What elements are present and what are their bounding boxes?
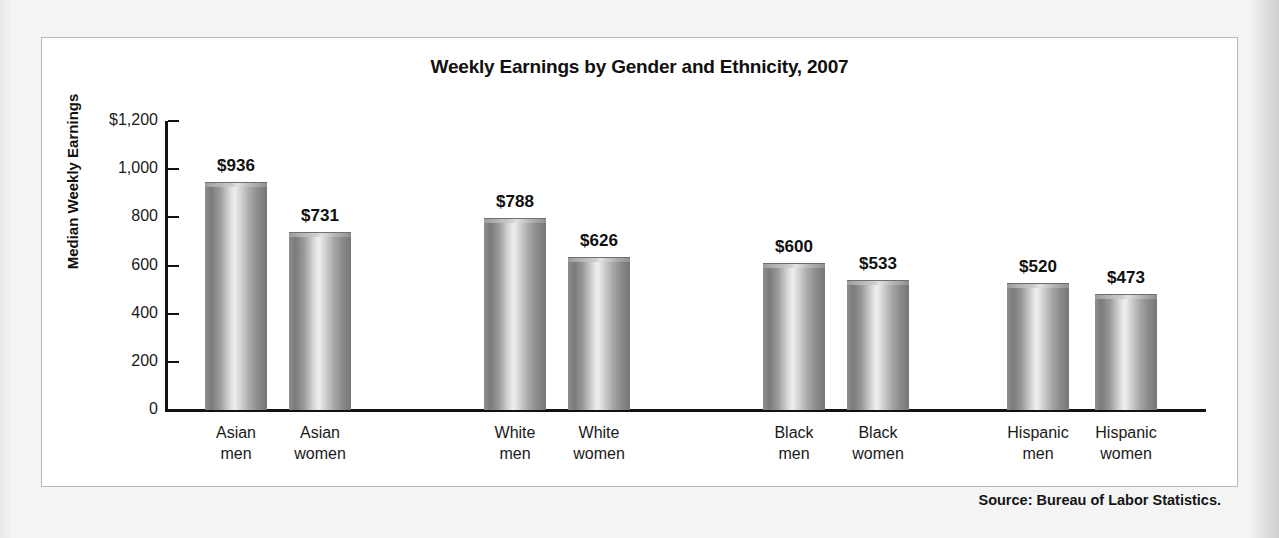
- bar-value-hispanic-men: $520: [988, 257, 1088, 277]
- category-label-hispanic-women: Hispanic women: [1066, 422, 1186, 464]
- bar-white-men[interactable]: [484, 218, 546, 410]
- y-tick-label-600: 600: [70, 256, 158, 274]
- y-tick-1000: [168, 168, 179, 170]
- bar-asian-women[interactable]: [289, 232, 351, 410]
- bar-value-white-men: $788: [465, 192, 565, 212]
- category-label-black-women: Black women: [818, 422, 938, 464]
- bar-hispanic-men[interactable]: [1007, 283, 1069, 410]
- category-line-1: Asian: [260, 422, 380, 443]
- bar-hispanic-women[interactable]: [1095, 294, 1157, 410]
- page-background: Weekly Earnings by Gender and Ethnicity,…: [0, 0, 1279, 538]
- chart-figure-frame: Weekly Earnings by Gender and Ethnicity,…: [41, 37, 1238, 487]
- bar-value-black-women: $533: [828, 254, 928, 274]
- category-label-white-women: White women: [539, 422, 659, 464]
- y-tick-label-800: 800: [70, 207, 158, 225]
- y-tick-label-1000: 1,000: [70, 159, 158, 177]
- y-tick-label-1200: $1,200: [70, 111, 158, 129]
- bar-value-asian-men: $936: [186, 156, 286, 176]
- bar-value-asian-women: $731: [270, 206, 370, 226]
- y-tick-1200: [168, 120, 179, 122]
- y-tick-label-400: 400: [70, 304, 158, 322]
- y-tick-200: [168, 361, 179, 363]
- category-line-1: Black: [818, 422, 938, 443]
- bar-black-women[interactable]: [847, 280, 909, 410]
- y-tick-label-0: 0: [70, 400, 158, 418]
- category-label-asian-women: Asian women: [260, 422, 380, 464]
- y-tick-800: [168, 216, 179, 218]
- bar-asian-men[interactable]: [205, 182, 267, 410]
- bar-black-men[interactable]: [763, 263, 825, 410]
- bar-value-hispanic-women: $473: [1076, 268, 1176, 288]
- source-note: Source: Bureau of Labor Statistics.: [0, 492, 1221, 508]
- category-line-2: women: [818, 443, 938, 464]
- category-line-1: Hispanic: [1066, 422, 1186, 443]
- y-tick-600: [168, 265, 179, 267]
- bar-white-women[interactable]: [568, 257, 630, 410]
- bar-value-white-women: $626: [549, 231, 649, 251]
- plot-area: Median Weekly Earnings $1,200 1,000 800 …: [42, 38, 1239, 488]
- y-tick-400: [168, 313, 179, 315]
- category-line-2: women: [260, 443, 380, 464]
- category-line-1: White: [539, 422, 659, 443]
- category-line-2: women: [1066, 443, 1186, 464]
- y-tick-label-200: 200: [70, 352, 158, 370]
- y-tick-0: [168, 409, 179, 411]
- category-line-2: women: [539, 443, 659, 464]
